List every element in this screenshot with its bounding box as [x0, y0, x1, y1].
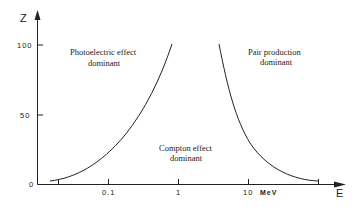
y-tick-label-50: 50	[20, 111, 30, 120]
y-tick-label-0: 0	[29, 180, 34, 189]
x-tick-label-10: 10	[243, 188, 253, 197]
x-tick-label-0.1: 0.1	[102, 188, 115, 197]
pair-label-line1: Pair production	[248, 47, 301, 57]
y-axis-label: Z	[20, 12, 27, 24]
y-tick-label-100: 100	[17, 41, 33, 50]
x-tick-label-1: 1	[176, 188, 181, 197]
compton-label-line2: dominant	[170, 153, 203, 163]
photoelectric-label-line2: dominant	[88, 58, 121, 68]
interaction-regions-diagram: Z E 100 50 0 0.1 1 10 MeV Photoelectric …	[0, 0, 360, 207]
pair-label-line2: dominant	[260, 57, 293, 67]
compton-label-line1: Compton effect	[159, 143, 213, 153]
x-axis-label: E	[336, 187, 343, 199]
y-axis-arrow-icon	[35, 10, 41, 20]
photoelectric-label-line1: Photoelectric effect	[70, 47, 137, 57]
x-unit-label: MeV	[260, 189, 277, 196]
